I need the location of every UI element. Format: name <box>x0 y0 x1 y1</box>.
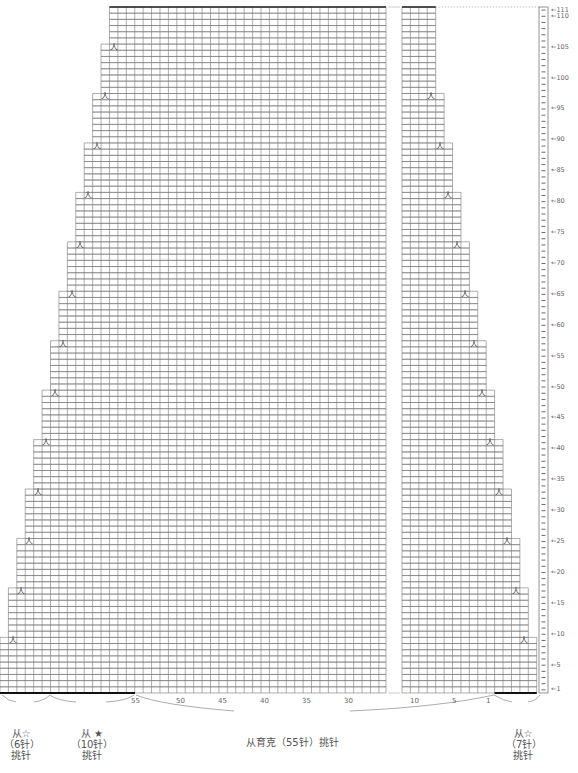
row-number-label: ←75 <box>551 229 565 236</box>
row-number-label: ←50 <box>551 384 565 391</box>
row-number-label: ←25 <box>551 538 565 545</box>
row-number-label: ←5 <box>551 662 561 669</box>
pickup-label-left-outline-star: 从☆ （6针） 挑针 <box>4 728 38 761</box>
decrease-symbol-icon: 人 <box>68 290 76 299</box>
row-number-label: ←95 <box>551 105 565 112</box>
decrease-symbol-icon: 人 <box>512 587 520 596</box>
decrease-symbol-icon: 人 <box>101 92 109 101</box>
decrease-symbol-icon: 人 <box>110 43 118 52</box>
stitch-number-label: 1 <box>486 697 490 705</box>
stitch-number-label: 35 <box>302 697 311 705</box>
decrease-symbol-icon: 人 <box>84 191 92 200</box>
decrease-symbol-icon: 人 <box>461 290 469 299</box>
row-number-label: ←90 <box>551 136 565 143</box>
stitch-number-label: 55 <box>131 697 140 705</box>
pickup-label-right-outline-star: 从☆ （7针） 挑针 <box>506 728 540 761</box>
stitch-number-label: 5 <box>452 697 456 705</box>
decrease-symbol-icon: 人 <box>520 636 528 645</box>
row-number-label: ←10 <box>551 631 565 638</box>
stitch-number-label: 50 <box>176 697 185 705</box>
decrease-symbol-icon: 人 <box>76 241 84 250</box>
row-number-label: ←70 <box>551 260 565 267</box>
row-number-label: ←60 <box>551 322 565 329</box>
decrease-symbol-icon: 人 <box>478 389 486 398</box>
row-number-label: ←45 <box>551 414 565 421</box>
row-number-label: ←1 <box>551 686 561 693</box>
pickup-filled-line3: 挑针 <box>70 750 114 761</box>
decrease-symbol-icon: 人 <box>17 587 25 596</box>
row-number-label: ←15 <box>551 600 565 607</box>
row-number-label: ←65 <box>551 291 565 298</box>
decrease-symbol-icon: 人 <box>42 438 50 447</box>
decrease-symbol-icon: 人 <box>436 142 444 151</box>
row-number-label: ←85 <box>551 167 565 174</box>
decrease-symbol-icon: 人 <box>495 488 503 497</box>
decrease-symbol-icon: 人 <box>25 537 33 546</box>
pickup-right-outline-line2: （7针） <box>506 739 540 750</box>
decrease-symbol-icon: 人 <box>444 191 452 200</box>
decrease-symbol-icon: 人 <box>427 92 435 101</box>
row-number-label: ←20 <box>551 569 565 576</box>
decrease-symbol-icon: 人 <box>9 636 17 645</box>
knitting-chart: 人人人人人人人人人人人人人人人人人人人人人人人人人 <box>0 0 578 773</box>
row-number-label: ←30 <box>551 507 565 514</box>
decrease-symbol-icon: 人 <box>470 340 478 349</box>
stitch-number-label: 45 <box>218 697 227 705</box>
stitch-number-label: 10 <box>410 697 419 705</box>
pickup-right-outline-line3: 挑针 <box>506 750 540 761</box>
decrease-symbol-icon: 人 <box>486 438 494 447</box>
pickup-label-main: 从育克（55针）挑针 <box>246 734 339 749</box>
row-number-label: ←40 <box>551 445 565 452</box>
pickup-filled-line1: 从 ★ <box>70 728 114 739</box>
decrease-symbol-icon: 人 <box>453 241 461 250</box>
row-number-label: ←105 <box>551 44 569 51</box>
decrease-symbol-icon: 人 <box>34 488 42 497</box>
decrease-symbol-icon: 人 <box>93 142 101 151</box>
row-number-label: ←100 <box>551 75 569 82</box>
row-number-label: ←111 <box>551 7 569 14</box>
stitch-number-label: 40 <box>260 697 269 705</box>
stitch-number-label: 30 <box>344 697 353 705</box>
pickup-left-outline-line3: 挑针 <box>4 750 38 761</box>
pickup-label-filled-star: 从 ★ （10针） 挑针 <box>70 728 114 761</box>
row-number-label: ←35 <box>551 476 565 483</box>
pickup-left-outline-line2: （6针） <box>4 739 38 750</box>
decrease-symbol-icon: 人 <box>59 340 67 349</box>
decrease-symbol-icon: 人 <box>503 537 511 546</box>
row-number-label: ←80 <box>551 198 565 205</box>
row-number-label: ←55 <box>551 353 565 360</box>
pickup-left-outline-line1: 从☆ <box>4 728 38 739</box>
pickup-right-outline-line1: 从☆ <box>506 728 540 739</box>
pickup-filled-line2: （10针） <box>70 739 114 750</box>
row-number-label: ←110 <box>551 13 569 20</box>
decrease-symbol-icon: 人 <box>51 389 59 398</box>
